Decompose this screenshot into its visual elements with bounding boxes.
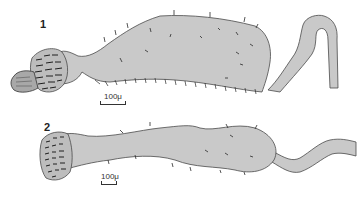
figure-1-scale-bar: 100μ [100, 92, 126, 105]
figure-1-scale-line [100, 101, 126, 105]
illustration [0, 0, 360, 198]
figure-2-tail-duct [272, 139, 356, 172]
figure-1-tail-duct [268, 15, 338, 92]
figure-2-scale-bar: 100μ [101, 172, 117, 185]
figure-2-specimen [40, 122, 356, 180]
figure-2-head [40, 132, 72, 180]
figure-2-scale-text: 100μ [101, 172, 117, 181]
figure-2-label: 2 [44, 121, 50, 133]
figure-1-label: 1 [40, 18, 46, 30]
figure-1-specimen [11, 10, 338, 94]
figure-1-scale-text: 100μ [100, 92, 126, 101]
figure-2-body [62, 126, 276, 172]
figure-2-scale-line [101, 181, 117, 185]
